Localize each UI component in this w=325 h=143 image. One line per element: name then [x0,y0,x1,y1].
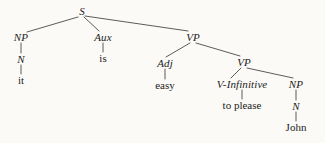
tree-leaf-easy: easy [155,79,175,91]
tree-edge-vp1-to-adj [166,43,190,57]
tree-leaf-to_please: to please [223,99,262,111]
tree-leaf-john: John [286,121,307,133]
tree-node-s: S [79,5,85,17]
tree-edge-vp2-to-np2 [247,68,293,78]
tree-leaf-it: it [18,74,24,86]
tree-edges-layer [0,0,325,143]
tree-edge-vp2-to-vinf [231,68,241,78]
tree-node-n1: N [17,53,24,65]
tree-node-aux: Aux [94,31,111,43]
tree-node-vp2: VP [237,56,251,68]
tree-node-vinf: V-Infinitive [217,78,268,90]
tree-node-adj: Adj [157,57,173,69]
syntax-tree-diagram: SNPNitAuxisVPAdjeasyVPV-Infinitiveto ple… [0,0,325,143]
tree-edge-s-to-aux [84,17,99,31]
tree-edge-vp1-to-vp2 [196,43,240,56]
tree-node-np1: NP [14,31,28,43]
tree-node-np2: NP [289,78,303,90]
tree-leaf-is: is [99,52,106,64]
tree-node-vp1: VP [186,31,200,43]
tree-edge-s-to-np1 [27,17,78,32]
tree-node-n2: N [292,100,299,112]
tree-edge-s-to-vp1 [85,16,188,31]
